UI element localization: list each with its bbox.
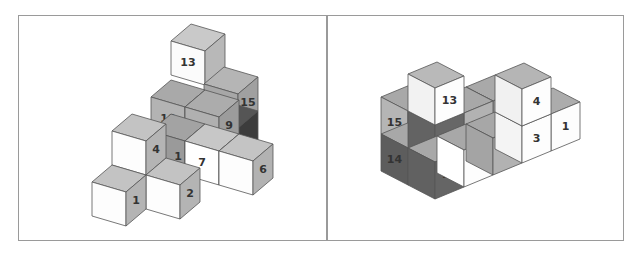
left-view-cubes: 1315109764211 xyxy=(92,24,273,226)
cube-label: 1 xyxy=(174,150,182,163)
cube-label: 2 xyxy=(186,187,194,200)
cube-label: 7 xyxy=(198,156,206,169)
cube-label: 3 xyxy=(533,132,541,145)
cube-label: 6 xyxy=(259,163,267,176)
cube-label: 13 xyxy=(442,94,457,107)
cube-label: 14 xyxy=(387,153,403,166)
cube-label: 9 xyxy=(225,119,233,132)
cube-label: 4 xyxy=(533,95,541,108)
cube-figure-canvas: 1315109764211 15141012111385134 xyxy=(0,0,642,255)
cube-label: 13 xyxy=(180,56,195,69)
cube-label: 1 xyxy=(562,120,570,133)
cube-label: 1 xyxy=(132,194,140,207)
right-view-cubes: 15141012111385134 xyxy=(381,62,580,199)
cube-label: 4 xyxy=(152,143,160,156)
